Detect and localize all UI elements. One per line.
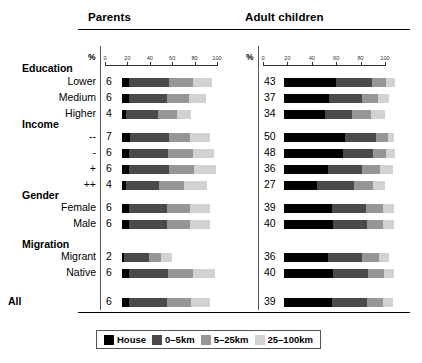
legend-swatch-icon [104, 335, 114, 345]
bar-segment [190, 133, 210, 142]
axis-tick [263, 62, 264, 66]
bar-segment [284, 298, 332, 307]
legend-item: 25–100km [255, 334, 313, 345]
bar-segment [190, 204, 210, 213]
chart-legend: House0–5km5–25km25–100km [96, 330, 321, 349]
bar-segment [343, 149, 374, 158]
axis-tick-label: 20 [284, 55, 290, 61]
bar-parents-male-8 [122, 220, 234, 229]
axis-tick [127, 62, 128, 66]
axis-tick-label: 100 [380, 55, 389, 61]
legend-swatch-icon [201, 335, 211, 345]
bar-segment [167, 220, 191, 229]
axis-tick [385, 62, 386, 66]
bar-adult-children-native-10 [284, 269, 406, 278]
bar-segment [168, 269, 193, 278]
row-label-all-11: All [8, 295, 68, 307]
bar-segment [122, 78, 129, 87]
bar-segment [126, 181, 158, 190]
bar-segment [122, 165, 129, 174]
bar-segment [376, 133, 388, 142]
bar-parents-higher-2 [122, 110, 234, 119]
bar-segment [129, 165, 169, 174]
bar-adult-children-migrant-9 [284, 253, 406, 262]
x-axis-adult-children: 020406080100 [263, 50, 385, 66]
bar-segment [126, 110, 157, 119]
axis-tick-label: 80 [191, 55, 197, 61]
bar-segment [189, 94, 206, 103]
axis-tick-label: 20 [124, 55, 130, 61]
bar-parents-native-10 [122, 269, 234, 278]
value-adult-children-medium-1: 37 [264, 91, 286, 103]
bar-segment [371, 110, 386, 119]
stacked-bar-chart: Parents Adult children % % 020406080100 … [0, 0, 422, 363]
row-label-male-8: Male [0, 217, 96, 229]
bar-segment [366, 204, 383, 213]
group-title-education: Education [22, 62, 73, 74]
axis-tick [312, 62, 313, 66]
row-label-medium-1: Medium [0, 91, 96, 103]
bar-parents-lvl5-5 [122, 165, 234, 174]
panel-title-parents: Parents [88, 11, 131, 23]
axis-tick-label: 40 [309, 55, 315, 61]
legend-swatch-icon [152, 335, 162, 345]
value-adult-children-lvl4-4: 48 [264, 146, 286, 158]
row-label-lvl5-5: + [0, 162, 96, 174]
bar-adult-children-male-8 [284, 220, 406, 229]
legend-label: 25–100km [268, 334, 313, 345]
panel-separator-right [258, 46, 259, 310]
bar-segment [149, 253, 161, 262]
legend-label: 5–25km [214, 334, 249, 345]
bar-parents-lvl6-6 [122, 181, 234, 190]
bar-adult-children-lower-0 [284, 78, 406, 87]
axis-tick-label: 0 [103, 55, 106, 61]
bar-segment [328, 253, 362, 262]
bar-segment [284, 133, 345, 142]
bar-parents-female-7 [122, 204, 234, 213]
bar-segment [169, 165, 194, 174]
row-label-female-7: Female [0, 201, 96, 213]
bar-segment [379, 253, 389, 262]
value-adult-children-male-8: 40 [264, 217, 286, 229]
bar-segment [332, 204, 366, 213]
bar-segment [122, 149, 129, 158]
axis-tick [105, 62, 106, 66]
group-title-migration: Migration [22, 238, 69, 250]
panel-title-adult-children: Adult children [245, 11, 324, 23]
bar-parents-migrant-9 [122, 253, 234, 262]
row-label-lvl3-3: -- [0, 130, 96, 142]
bar-parents-lvl3-3 [122, 133, 234, 142]
bar-segment [122, 220, 129, 229]
bar-segment [129, 78, 169, 87]
axis-tick-label: 0 [261, 55, 264, 61]
bar-segment [193, 269, 215, 278]
bar-parents-all-11 [122, 298, 234, 307]
bar-segment [129, 204, 167, 213]
bar-segment [328, 165, 362, 174]
bar-segment [345, 133, 376, 142]
bar-segment [284, 204, 332, 213]
axis-tick [150, 62, 151, 66]
bar-segment [167, 94, 189, 103]
bar-segment [333, 220, 367, 229]
legend-item: House [104, 334, 146, 345]
bar-segment [169, 78, 193, 87]
axis-tick-label: 100 [212, 55, 221, 61]
bar-segment [122, 298, 129, 307]
bar-adult-children-higher-2 [284, 110, 406, 119]
bar-segment [130, 133, 169, 142]
bar-segment [284, 149, 343, 158]
axis-tick [287, 62, 288, 66]
row-label-lvl6-6: ++ [0, 178, 96, 190]
bar-segment [386, 78, 395, 87]
value-adult-children-higher-2: 34 [264, 107, 286, 119]
bar-segment [333, 269, 368, 278]
bar-segment [158, 110, 177, 119]
bar-segment [362, 253, 379, 262]
bar-segment [329, 94, 362, 103]
bar-segment [159, 181, 184, 190]
bar-segment [122, 94, 129, 103]
bar-segment [161, 253, 172, 262]
row-label-higher-2: Higher [0, 107, 96, 119]
row-label-lvl4-4: - [0, 146, 96, 158]
